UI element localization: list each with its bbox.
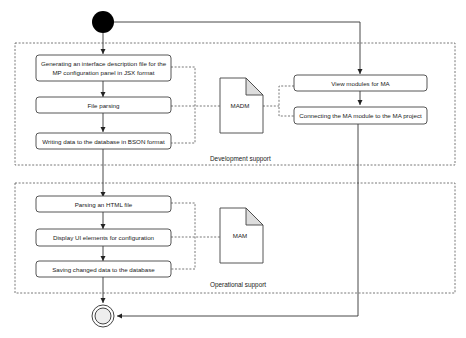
initial-node <box>92 11 114 33</box>
development-support-label: Development support <box>210 155 271 163</box>
document-madm-fold <box>246 78 263 95</box>
operational-support-label: Operational support <box>210 281 266 289</box>
dependency-bracket-mam <box>171 203 195 269</box>
document-mam-fold <box>246 208 263 225</box>
activity-generate-line2: MP configuration panel in JSX format <box>52 69 154 76</box>
activity-display-ui-label: Display UI elements for configuration <box>53 234 155 241</box>
dependency-bracket-ma <box>279 86 294 116</box>
activity-parsing-html-label: Parsing an HTML file <box>75 201 133 208</box>
activity-connecting-ma-label: Connecting the MA module to the MA proje… <box>299 112 422 119</box>
document-mam-label: MAM <box>233 232 247 239</box>
activity-generate-interface-file <box>36 55 171 81</box>
dependency-bracket-madm <box>171 67 195 143</box>
activity-diagram: Development support Operational support … <box>0 0 466 338</box>
activity-generate-line1: Generating an interface description file… <box>41 60 167 67</box>
activity-saving-data-label: Saving changed data to the database <box>52 266 155 273</box>
activity-view-modules-label: View modules for MA <box>331 80 390 87</box>
final-node-inner <box>95 308 111 324</box>
activity-writing-bson-label: Writing data to the database in BSON for… <box>42 138 165 145</box>
document-madm-label: MADM <box>231 102 250 109</box>
activity-file-parsing-label: File parsing <box>88 102 121 109</box>
